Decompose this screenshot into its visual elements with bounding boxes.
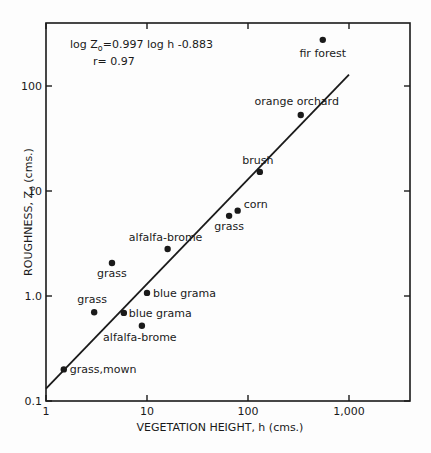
- point-label: grass,mown: [70, 363, 137, 376]
- point-marker-icon: [144, 290, 150, 296]
- point-marker-icon: [234, 207, 240, 213]
- point-marker-icon: [61, 366, 67, 372]
- point-label: blue grama: [129, 307, 192, 320]
- point-marker-icon: [164, 246, 170, 252]
- plot-frame: [46, 23, 410, 401]
- x-tick-label: 100: [238, 405, 259, 418]
- data-point: blue grama: [121, 307, 192, 320]
- data-point: orange orchard: [255, 95, 339, 118]
- point-marker-icon: [139, 323, 145, 329]
- point-label: fir forest: [299, 47, 346, 60]
- point-label: alfalfa-brome: [103, 331, 177, 344]
- y-tick-label: 1.0: [25, 290, 43, 303]
- point-label: grass: [214, 220, 244, 233]
- point-marker-icon: [298, 112, 304, 118]
- data-point: blue grama: [144, 287, 216, 300]
- x-tick-label: 1: [43, 405, 50, 418]
- point-marker-icon: [91, 309, 97, 315]
- data-point: alfalfa-brome: [129, 231, 203, 252]
- correlation-annotation: r= 0.97: [93, 55, 135, 68]
- point-marker-icon: [121, 310, 127, 316]
- data-point: grass: [97, 260, 127, 280]
- y-axis-label: ROUGHNESS, Zo (cms.): [22, 148, 37, 276]
- point-marker-icon: [226, 213, 232, 219]
- x-tick-label: 1,000: [333, 405, 365, 418]
- point-label: alfalfa-brome: [129, 231, 203, 244]
- data-point: grass,mown: [61, 363, 137, 376]
- data-point: grass: [77, 293, 107, 315]
- point-label: corn: [244, 198, 268, 211]
- y-tick-label: 0.1: [25, 395, 43, 408]
- data-points: grass,mowngrassblue gramaalfalfa-bromebl…: [61, 37, 347, 377]
- point-label: grass: [97, 267, 127, 280]
- scatter-chart: 1101001,0000.11.010100 grass,mowngrassbl…: [0, 0, 431, 453]
- x-axis-label: VEGETATION HEIGHT, h (cms.): [137, 421, 304, 434]
- data-point: alfalfa-brome: [103, 323, 177, 344]
- point-marker-icon: [109, 260, 115, 266]
- data-point: brush: [242, 154, 273, 175]
- point-label: grass: [77, 293, 107, 306]
- point-marker-icon: [320, 37, 326, 43]
- point-marker-icon: [257, 169, 263, 175]
- point-label: blue grama: [153, 287, 216, 300]
- data-point: grass: [214, 213, 244, 233]
- data-point: corn: [234, 198, 267, 214]
- data-point: fir forest: [299, 37, 346, 60]
- point-label: orange orchard: [255, 95, 339, 108]
- x-tick-label: 10: [140, 405, 154, 418]
- y-tick-label: 100: [21, 80, 42, 93]
- equation-annotation: log Zo=0.997 log h -0.883: [70, 38, 213, 53]
- point-label: brush: [242, 154, 273, 167]
